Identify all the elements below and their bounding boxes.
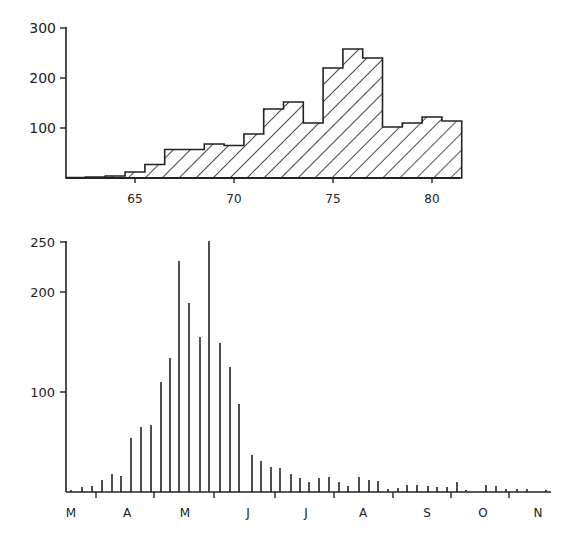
month-label: J [303, 506, 308, 520]
month-label: O [478, 506, 487, 520]
x-tick-label: 70 [226, 192, 241, 206]
month-label: A [123, 506, 132, 520]
y-tick-label: 250 [30, 235, 55, 250]
month-label: M [180, 506, 190, 520]
bottom-y-ticks: 250200100 [30, 235, 66, 400]
month-label: A [359, 506, 368, 520]
month-label: N [534, 506, 543, 520]
bottom-spike-chart: 250200100 MAMJJASON [30, 235, 551, 520]
y-tick-label: 100 [29, 120, 56, 136]
bottom-spike-bars [71, 241, 546, 492]
y-tick-label: 300 [29, 20, 56, 36]
bottom-month-ticks: MAMJJASON [66, 492, 543, 520]
month-label: M [66, 506, 76, 520]
top-y-ticks: 300200100 [29, 20, 66, 136]
x-tick-label: 80 [424, 192, 439, 206]
y-tick-label: 200 [30, 285, 55, 300]
x-tick-label: 65 [127, 192, 142, 206]
y-tick-label: 100 [30, 385, 55, 400]
x-tick-label: 75 [325, 192, 340, 206]
top-x-ticks: 65707580 [127, 178, 439, 206]
top-histogram-bars [66, 49, 462, 178]
figure: 300200100 65707580 250200100 MAMJJASON [0, 0, 567, 541]
y-tick-label: 200 [29, 70, 56, 86]
month-label: S [423, 506, 431, 520]
month-label: J [245, 506, 250, 520]
top-histogram: 300200100 65707580 [29, 20, 461, 206]
